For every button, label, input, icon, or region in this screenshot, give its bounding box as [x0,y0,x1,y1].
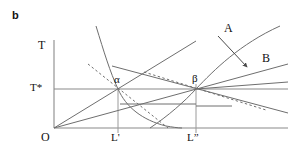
axes-group [54,40,288,133]
curve-label-a: A [224,22,233,34]
point-label-alpha: α [114,74,120,85]
curve-label-b: B [262,52,270,64]
curves-group [54,26,288,128]
ray-origin-to-beta [54,64,288,128]
curve-increasing-concave [150,26,280,128]
y-axis-label: T [38,39,45,51]
arrow-a-to-curve [218,36,247,67]
tick-label-l-double-prime: L” [187,132,199,143]
point-label-beta: β [192,73,198,84]
ray-origin-to-alpha [54,41,196,128]
tick-label-l-prime: L' [111,132,120,143]
tangent-dashed-at-alpha [88,64,168,128]
panel-letter: b [12,10,19,21]
figure-panel-b: b T T* O L' L” α β A B [0,0,292,153]
t-star-label: T* [30,82,42,93]
origin-label: O [41,131,50,143]
